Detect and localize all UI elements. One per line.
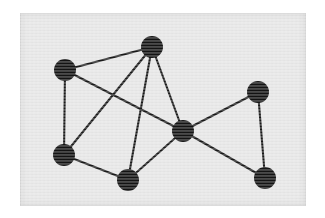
graph-node-bottom-right[interactable]	[254, 167, 276, 189]
graph-panel	[20, 13, 306, 206]
graph-node-top[interactable]	[141, 36, 163, 58]
graph-svg	[20, 13, 306, 206]
graph-node-bottom-left[interactable]	[53, 144, 75, 166]
graph-node-center[interactable]	[172, 120, 194, 142]
graph-node-top-left[interactable]	[54, 59, 76, 81]
graph-node-top-right[interactable]	[247, 81, 269, 103]
graph-edge-n1-n5[interactable]	[64, 70, 65, 155]
graph-node-bottom-mid[interactable]	[117, 169, 139, 191]
figure-canvas	[0, 0, 325, 218]
